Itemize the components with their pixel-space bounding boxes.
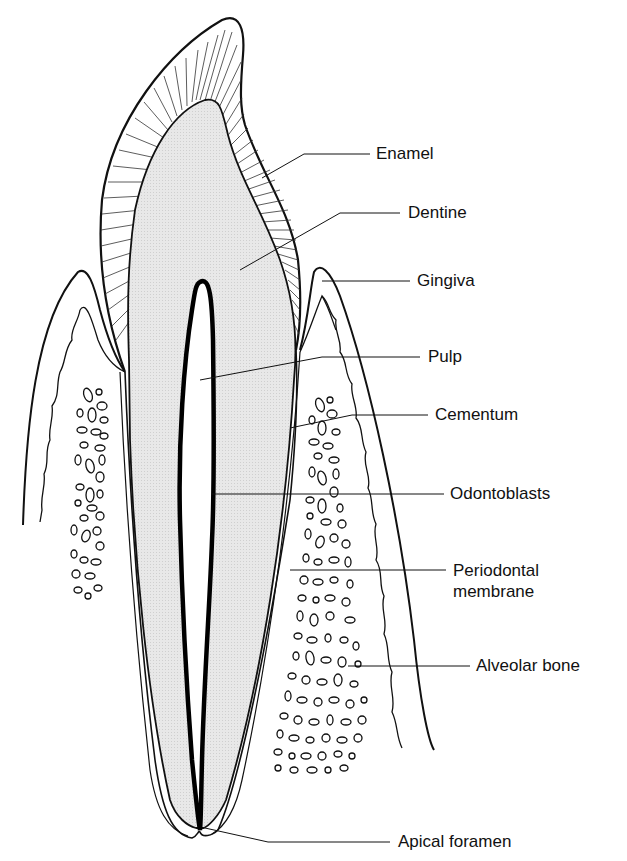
label-periodontal-membrane: Periodontal membrane: [453, 560, 539, 602]
left-alveolar-bone: [71, 387, 108, 599]
left-bone-edge: [40, 310, 80, 522]
label-apical-foramen: Apical foramen: [398, 832, 511, 852]
leader-apical: [205, 828, 390, 842]
tooth-diagram: [0, 0, 627, 861]
label-alveolar-bone: Alveolar bone: [476, 656, 580, 676]
label-enamel: Enamel: [376, 144, 434, 164]
leader-enamel: [262, 154, 370, 178]
label-gingiva: Gingiva: [417, 271, 475, 291]
label-odontoblasts: Odontoblasts: [450, 484, 550, 504]
right-gingiva: [300, 268, 434, 750]
label-cementum: Cementum: [435, 405, 518, 425]
label-dentine: Dentine: [408, 203, 467, 223]
label-pulp: Pulp: [428, 347, 462, 367]
